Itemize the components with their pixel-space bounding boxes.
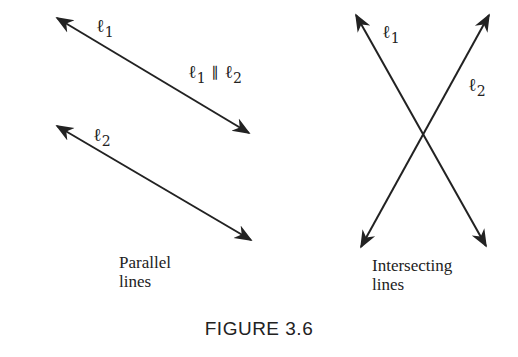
parallel-line-1 [57, 18, 249, 133]
intersecting-line-2 [361, 15, 489, 247]
diagram-canvas: ℓ1 ℓ2 ℓ1∥ℓ2 ℓ1 ℓ2 [0, 0, 518, 357]
intersecting-caption: Intersecting lines [372, 256, 452, 294]
intersecting-l2-label: ℓ2 [468, 74, 486, 99]
parallel-caption-line1: Parallel [119, 253, 171, 272]
intersecting-l1-label: ℓ1 [382, 21, 400, 46]
parallel-l2-label: ℓ2 [93, 124, 111, 149]
intersecting-caption-line1: Intersecting [372, 256, 452, 275]
parallel-caption-line2: lines [119, 272, 171, 291]
parallel-relation-label: ℓ1∥ℓ2 [188, 61, 242, 86]
parallel-line-2 [57, 126, 251, 240]
parallel-l1-label: ℓ1 [96, 15, 114, 40]
parallel-caption: Parallel lines [119, 253, 171, 291]
intersecting-caption-line2: lines [372, 275, 452, 294]
figure-caption: FIGURE 3.6 [0, 318, 518, 340]
intersecting-line-1 [356, 15, 486, 246]
